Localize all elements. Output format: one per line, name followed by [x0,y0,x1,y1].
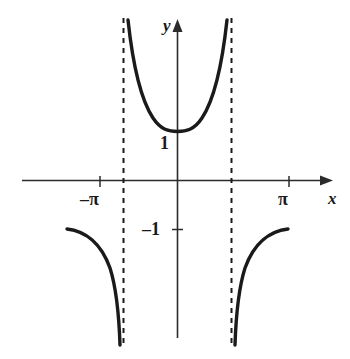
y-axis-label: y [163,17,171,34]
x-axis-arrowhead [320,176,333,186]
y-tick-label-one: 1 [160,134,169,152]
y-axis [173,19,183,338]
x-axis-label: x [328,190,337,207]
y-tick-label-neg-one: –1 [142,220,160,238]
curve-sec-left-branch [67,229,120,345]
plot-canvas [0,0,350,359]
x-tick-label-neg-pi: –π [80,190,99,208]
y-axis-arrowhead [173,19,183,32]
curve-sec-right-branch [235,229,288,345]
x-tick-label-pi: π [278,190,288,208]
sec-function-graph-figure: y x –π π 1 –1 [0,0,350,359]
